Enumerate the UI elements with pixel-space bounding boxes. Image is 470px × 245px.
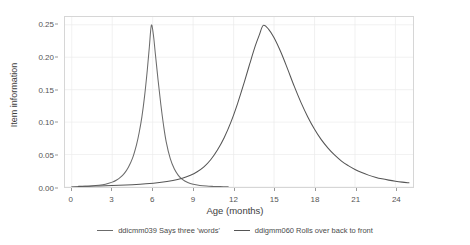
plot-area bbox=[64, 16, 414, 188]
y-tick-mark bbox=[55, 23, 58, 24]
x-tick-mark bbox=[356, 188, 357, 191]
y-axis-ticks: 0.000.050.100.150.200.25 bbox=[22, 0, 58, 200]
y-tick-mark bbox=[55, 89, 58, 90]
x-tick-mark bbox=[274, 188, 275, 191]
y-tick-label: 0.10 bbox=[38, 118, 54, 127]
legend-item-label: ddicmm039 Says three 'words' bbox=[118, 226, 220, 235]
legend-item-label: ddigmm060 Rolls over back to front bbox=[255, 226, 373, 235]
chart-legend: ddicmm039 Says three 'words'ddigmm060 Ro… bbox=[0, 226, 470, 235]
x-tick-label: 6 bbox=[150, 195, 154, 204]
x-tick-label: 21 bbox=[351, 195, 360, 204]
x-tick-label: 18 bbox=[311, 195, 320, 204]
x-tick-label: 15 bbox=[270, 195, 279, 204]
legend-item-0[interactable]: ddicmm039 Says three 'words' bbox=[97, 226, 220, 235]
y-tick-mark bbox=[55, 56, 58, 57]
y-tick-label: 0.20 bbox=[38, 52, 54, 61]
x-tick-mark bbox=[152, 188, 153, 191]
x-tick-mark bbox=[396, 188, 397, 191]
y-axis-title: Item information bbox=[6, 0, 22, 190]
x-tick-label: 0 bbox=[69, 195, 73, 204]
x-tick-mark bbox=[193, 188, 194, 191]
y-tick-mark bbox=[55, 155, 58, 156]
y-tick-mark bbox=[55, 122, 58, 123]
chart-figure: Item information 0.000.050.100.150.200.2… bbox=[0, 0, 470, 245]
y-tick-label: 0.05 bbox=[38, 151, 54, 160]
plot-svg bbox=[65, 17, 413, 187]
y-axis-title-label: Item information bbox=[9, 63, 19, 128]
x-axis-title: Age (months) bbox=[0, 205, 470, 216]
x-tick-label: 3 bbox=[109, 195, 113, 204]
x-tick-mark bbox=[71, 188, 72, 191]
x-tick-mark bbox=[315, 188, 316, 191]
legend-line-icon bbox=[234, 230, 250, 231]
series-line-0 bbox=[72, 25, 228, 187]
x-axis-title-label: Age (months) bbox=[206, 205, 263, 216]
x-tick-label: 12 bbox=[229, 195, 238, 204]
x-tick-label: 9 bbox=[191, 195, 195, 204]
x-tick-mark bbox=[111, 188, 112, 191]
x-tick-mark bbox=[234, 188, 235, 191]
legend-item-1[interactable]: ddigmm060 Rolls over back to front bbox=[234, 226, 373, 235]
x-tick-label: 24 bbox=[392, 195, 401, 204]
y-tick-label: 0.15 bbox=[38, 85, 54, 94]
y-tick-label: 0.25 bbox=[38, 19, 54, 28]
legend-line-icon bbox=[97, 230, 113, 231]
series-line-1 bbox=[78, 25, 408, 186]
